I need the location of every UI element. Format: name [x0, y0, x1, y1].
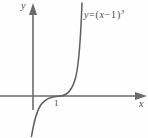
function-graph-figure: y x 1 y=(x−1)3 [0, 0, 148, 138]
y-axis-arrowhead [29, 3, 37, 15]
curve-equation-label: y=(x−1)3 [84, 9, 124, 20]
equation-minus: − [104, 9, 111, 20]
cubic-curve [32, 3, 83, 137]
equation-exponent: 3 [121, 8, 124, 15]
y-axis-label: y [21, 1, 25, 11]
x-axis-label: x [139, 99, 143, 109]
equation-constant: 1 [111, 9, 117, 20]
plot-canvas [0, 0, 148, 138]
x-tick-label-1: 1 [54, 99, 59, 108]
